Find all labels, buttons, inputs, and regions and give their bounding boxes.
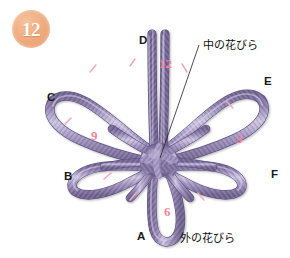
point-label-E: E	[264, 76, 272, 88]
center-knot	[140, 143, 178, 177]
point-label-D: D	[139, 35, 147, 47]
clock-number-6: 6	[164, 205, 171, 218]
clock-number-3: 3	[236, 132, 243, 145]
annotation-outer-petal: 外の花びら	[180, 233, 235, 244]
point-label-C: C	[47, 92, 55, 104]
step-number-text: 12	[22, 20, 40, 39]
annotation-inner-petal: 中の花びら	[203, 40, 258, 51]
knot-diagram-figure: 12 D E C B F A 12 3 9 6 中の花びら 外の花びら	[0, 0, 290, 258]
petal-loop-D	[149, 34, 165, 150]
clock-number-9: 9	[91, 129, 98, 142]
point-label-A: A	[137, 231, 145, 243]
step-number-badge: 12	[12, 10, 50, 48]
petal-loop-C	[50, 96, 150, 162]
clock-number-12: 12	[159, 57, 172, 70]
point-label-B: B	[64, 171, 72, 183]
point-label-F: F	[271, 169, 278, 181]
